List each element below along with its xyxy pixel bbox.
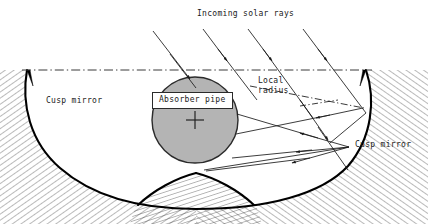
hatch-region-center bbox=[130, 173, 262, 224]
local-radius-pointer bbox=[300, 100, 338, 106]
label-local-radius: Local radius bbox=[258, 76, 289, 96]
cusp-tip-right bbox=[360, 70, 366, 86]
label-cusp-mirror-left: Cusp mirror bbox=[46, 96, 102, 106]
reflected-ray-2-tail bbox=[237, 114, 318, 138]
cusp-tip-left bbox=[27, 70, 33, 86]
solar-ray-1 bbox=[153, 31, 190, 79]
absorber-pipe-group[interactable] bbox=[152, 77, 238, 163]
cusp-mirror-diagram bbox=[0, 0, 428, 224]
reflected-ray-3-tail bbox=[232, 150, 312, 158]
label-incoming-solar-rays: Incoming solar rays bbox=[197, 9, 294, 19]
label-cusp-mirror-right: Cusp mirror bbox=[355, 140, 411, 150]
reflected-ray-4-tail bbox=[206, 158, 310, 171]
reflected-ray-5 bbox=[330, 113, 366, 143]
figure-root: Incoming solar rays Local radius Cusp mi… bbox=[0, 0, 428, 224]
label-absorber-pipe: Absorber pipe bbox=[152, 92, 233, 109]
